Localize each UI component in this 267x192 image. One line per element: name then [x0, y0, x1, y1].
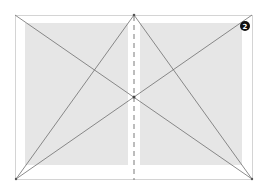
- page-layout-canon-diagram: 2: [0, 0, 267, 192]
- center-intersection-point: [133, 96, 136, 99]
- bottom-left-point: [15, 178, 17, 180]
- apex-point: [133, 14, 136, 17]
- step-badge: 2: [240, 21, 250, 31]
- bottom-right-point: [251, 178, 253, 180]
- badge-label: 2: [243, 23, 248, 31]
